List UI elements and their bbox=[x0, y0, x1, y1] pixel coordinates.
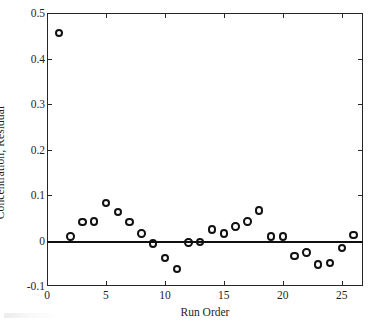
x-axis-tick-mark bbox=[283, 13, 284, 18]
y-axis-tick-mark bbox=[47, 195, 52, 196]
y-axis-tick-label: 0 bbox=[5, 235, 45, 247]
y-axis-tick-mark bbox=[47, 59, 52, 60]
x-axis-tick-label: 25 bbox=[322, 289, 362, 301]
data-point bbox=[161, 254, 169, 262]
y-axis-tick-label: 0.1 bbox=[5, 189, 45, 201]
x-axis-tick-mark bbox=[224, 281, 225, 286]
data-point bbox=[255, 206, 263, 214]
x-axis-tick-mark bbox=[342, 13, 343, 18]
data-point bbox=[349, 231, 357, 239]
data-point bbox=[78, 218, 86, 226]
data-point bbox=[326, 259, 334, 267]
x-axis-tick-mark bbox=[106, 13, 107, 18]
x-axis-tick-label: 10 bbox=[145, 289, 185, 301]
data-point bbox=[102, 199, 110, 207]
x-axis-tick-label: 0 bbox=[27, 289, 67, 301]
data-point bbox=[90, 217, 98, 225]
data-point bbox=[125, 218, 133, 226]
data-point bbox=[114, 208, 122, 216]
y-axis-tick-mark bbox=[47, 104, 52, 105]
y-axis-tick-mark bbox=[358, 150, 363, 151]
y-axis-title: Concentration, Residual bbox=[0, 0, 40, 325]
x-axis-tick-label: 15 bbox=[204, 289, 244, 301]
y-axis-tick-label: 0.5 bbox=[5, 7, 45, 19]
x-axis-tick-mark bbox=[165, 281, 166, 286]
y-axis-tick-label: 0.4 bbox=[5, 53, 45, 65]
y-axis-tick-mark bbox=[358, 59, 363, 60]
y-axis-tick-mark bbox=[358, 195, 363, 196]
x-axis-tick-label: 20 bbox=[263, 289, 303, 301]
data-point bbox=[173, 265, 181, 273]
x-axis-tick-mark bbox=[106, 281, 107, 286]
data-point bbox=[66, 232, 74, 240]
y-axis-tick-label: 0.3 bbox=[5, 98, 45, 110]
x-axis-tick-mark bbox=[342, 281, 343, 286]
y-axis-tick-label: 0.2 bbox=[5, 144, 45, 156]
y-axis-tick-mark bbox=[47, 150, 52, 151]
scan-artifact bbox=[4, 313, 62, 318]
data-point bbox=[243, 217, 251, 225]
plot-area bbox=[47, 13, 363, 286]
zero-reference-line bbox=[47, 241, 363, 243]
data-point bbox=[231, 222, 239, 230]
x-axis-tick-mark bbox=[224, 13, 225, 18]
data-point bbox=[302, 248, 310, 256]
data-point bbox=[220, 229, 228, 237]
x-axis-title: Run Order bbox=[47, 306, 363, 318]
data-point bbox=[290, 252, 298, 260]
data-point bbox=[267, 232, 275, 240]
data-point bbox=[208, 225, 216, 233]
x-axis-tick-mark bbox=[165, 13, 166, 18]
x-axis-tick-mark bbox=[283, 281, 284, 286]
x-axis-tick-label: 5 bbox=[86, 289, 126, 301]
data-point bbox=[279, 232, 287, 240]
residual-run-order-chart: Concentration, Residual -0.100.10.20.30.… bbox=[0, 0, 369, 325]
data-point bbox=[137, 229, 145, 237]
y-axis-tick-mark bbox=[358, 104, 363, 105]
